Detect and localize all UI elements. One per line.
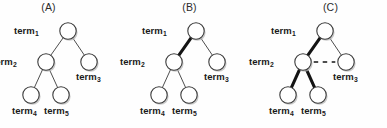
node-term4[interactable] — [23, 87, 39, 103]
figure-tree-diagrams: (A)term1term2term3term4term5(B)term1term… — [0, 0, 387, 128]
node-term2[interactable] — [295, 54, 311, 70]
node-term4[interactable] — [280, 87, 296, 103]
node-label-subscript: 5 — [65, 110, 69, 117]
node-label-term3: term3 — [76, 72, 100, 82]
node-label-term5: term5 — [44, 106, 68, 116]
node-term5[interactable] — [53, 87, 69, 103]
edge-term1-term2-bold — [308, 38, 321, 56]
node-label-term1: term1 — [142, 26, 166, 36]
node-label-term4: term4 — [12, 106, 36, 116]
node-label-text: term — [76, 71, 97, 82]
node-term2[interactable] — [38, 54, 54, 70]
node-label-term5: term5 — [301, 106, 325, 116]
node-label-term1: term1 — [14, 26, 38, 36]
node-term1[interactable] — [317, 23, 333, 39]
node-label-term4: term4 — [269, 106, 293, 116]
edge-term2-term5 — [49, 69, 57, 87]
node-label-text: term — [249, 56, 270, 67]
edge-term2-term4 — [34, 69, 42, 87]
edge-term2-term5 — [177, 69, 185, 87]
node-label-subscript: 4 — [33, 110, 37, 117]
edge-term1-term2-bold — [179, 38, 192, 56]
node-label-subscript: 3 — [97, 76, 101, 83]
node-term3[interactable] — [209, 54, 225, 70]
edge-term1-term2 — [51, 38, 64, 56]
node-label-text: term — [204, 71, 225, 82]
node-label-subscript: 2 — [141, 61, 145, 68]
edge-term2-term5-bold — [306, 69, 314, 87]
node-label-term2: term2 — [0, 57, 16, 67]
node-label-text: term — [333, 71, 354, 82]
node-term5[interactable] — [181, 87, 197, 103]
node-term2[interactable] — [166, 54, 182, 70]
node-label-text: term — [0, 56, 13, 67]
node-term1[interactable] — [188, 23, 204, 39]
node-term3[interactable] — [338, 54, 354, 70]
node-label-term3: term3 — [204, 72, 228, 82]
node-label-subscript: 1 — [163, 30, 167, 37]
edge-term1-term3 — [330, 38, 342, 55]
node-label-subscript: 3 — [225, 76, 229, 83]
node-label-subscript: 2 — [13, 61, 17, 68]
edge-term1-term3 — [73, 38, 85, 55]
node-label-text: term — [142, 25, 163, 36]
node-label-subscript: 3 — [354, 76, 358, 83]
node-label-text: term — [269, 105, 290, 116]
edge-term2-term4-bold — [291, 69, 299, 87]
node-term5[interactable] — [310, 87, 326, 103]
node-label-subscript: 1 — [292, 30, 296, 37]
node-label-subscript: 1 — [35, 30, 39, 37]
node-label-text: term — [271, 25, 292, 36]
node-label-term2: term2 — [249, 57, 273, 67]
node-label-term4: term4 — [140, 106, 164, 116]
node-term1[interactable] — [60, 23, 76, 39]
node-term4[interactable] — [151, 87, 167, 103]
node-term3[interactable] — [81, 54, 97, 70]
node-label-subscript: 5 — [322, 110, 326, 117]
panel-a: (A)term1term2term3term4term5 — [0, 0, 129, 128]
edge-term2-term4 — [162, 69, 170, 87]
node-label-text: term — [120, 56, 141, 67]
node-label-text: term — [12, 105, 33, 116]
node-label-term5: term5 — [172, 106, 196, 116]
node-label-term1: term1 — [271, 26, 295, 36]
node-label-subscript: 4 — [161, 110, 165, 117]
node-label-text: term — [140, 105, 161, 116]
node-label-subscript: 5 — [193, 110, 197, 117]
node-label-text: term — [301, 105, 322, 116]
panel-c: (C)term1term2term3term4term5 — [257, 0, 386, 128]
panel-b: (B)term1term2term3term4term5 — [128, 0, 257, 128]
node-label-text: term — [44, 105, 65, 116]
node-label-term3: term3 — [333, 72, 357, 82]
node-label-term2: term2 — [120, 57, 144, 67]
node-label-subscript: 4 — [290, 110, 294, 117]
node-label-subscript: 2 — [270, 61, 274, 68]
node-label-text: term — [14, 25, 35, 36]
edge-term1-term3 — [201, 38, 213, 55]
node-label-text: term — [172, 105, 193, 116]
